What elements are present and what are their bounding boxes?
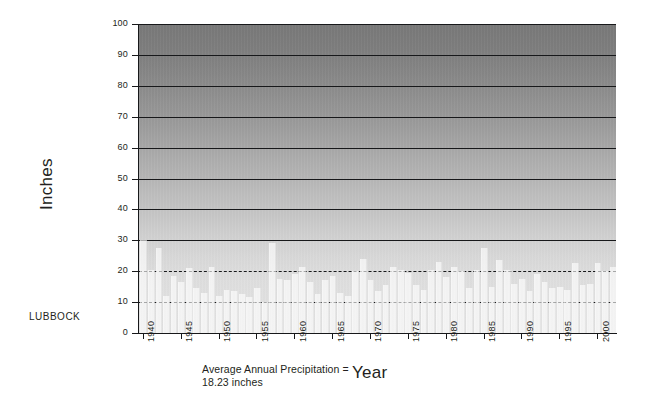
bar — [504, 270, 511, 333]
bar — [284, 280, 291, 333]
x-tick-1955 — [256, 333, 257, 339]
bar — [360, 259, 367, 333]
y-tick-label-20: 20 — [100, 266, 128, 276]
bar — [352, 271, 359, 333]
bar — [209, 267, 216, 333]
bar — [390, 267, 397, 333]
station-name-label: LUBBOCK — [29, 311, 80, 322]
bar — [156, 248, 163, 333]
bar — [383, 285, 390, 333]
y-tick-label-60: 60 — [100, 143, 128, 153]
bar — [542, 282, 549, 333]
y-tick-100 — [132, 24, 138, 25]
y-tick-20 — [132, 271, 138, 272]
bar — [163, 296, 170, 333]
bar — [269, 243, 276, 333]
bar — [307, 282, 314, 333]
y-tick-50 — [132, 179, 138, 180]
average-precipitation-note: Average Annual Precipitation = 18.23 inc… — [202, 363, 382, 389]
bar — [193, 288, 200, 333]
average-note-line-1: Average Annual Precipitation = — [202, 363, 349, 375]
bar — [140, 240, 147, 333]
y-tick-90 — [132, 55, 138, 56]
x-tick-1970 — [370, 333, 371, 339]
bar — [466, 288, 473, 333]
x-tick-label-1940: 1940 — [147, 321, 156, 342]
y-tick-label-text: 50 — [100, 174, 128, 183]
bar — [246, 297, 253, 333]
y-tick-30 — [132, 240, 138, 241]
y-tick-label-text: 70 — [100, 112, 128, 121]
y-tick-label-text: 100 — [100, 19, 128, 28]
y-tick-label-30: 30 — [100, 235, 128, 245]
y-tick-label-40: 40 — [100, 204, 128, 214]
y-tick-80 — [132, 86, 138, 87]
x-tick-1975 — [408, 333, 409, 339]
y-tick-0 — [132, 333, 138, 334]
bar — [458, 271, 465, 333]
x-tick-label-1960: 1960 — [299, 321, 308, 342]
x-tick-label-1975: 1975 — [412, 321, 421, 342]
y-tick-70 — [132, 117, 138, 118]
bar — [398, 270, 405, 333]
x-tick-label-1995: 1995 — [564, 321, 573, 342]
bar — [421, 290, 428, 333]
bar — [231, 291, 238, 333]
bar — [171, 276, 178, 333]
bar — [534, 274, 541, 333]
x-tick-label-1970: 1970 — [374, 321, 383, 342]
x-tick-1995 — [559, 333, 560, 339]
y-axis-line — [138, 24, 139, 334]
y-tick-label-80: 80 — [100, 81, 128, 91]
bar — [587, 284, 594, 333]
y-tick-label-text: 30 — [100, 235, 128, 244]
x-tick-1980 — [446, 333, 447, 339]
y-tick-label-text: 60 — [100, 143, 128, 152]
x-tick-label-1955: 1955 — [261, 321, 270, 342]
y-tick-label-0: 0 — [100, 328, 128, 338]
y-tick-10 — [132, 302, 138, 303]
x-tick-label-1965: 1965 — [337, 321, 346, 342]
bar — [436, 262, 443, 333]
y-axis-title: Inches — [38, 158, 55, 210]
bar — [496, 260, 503, 333]
y-tick-label-90: 90 — [100, 50, 128, 60]
bar — [239, 294, 246, 333]
x-tick-1990 — [521, 333, 522, 339]
x-tick-1960 — [294, 333, 295, 339]
x-tick-label-1985: 1985 — [488, 321, 497, 342]
bar — [511, 284, 518, 333]
bar — [277, 279, 284, 333]
x-tick-1965 — [332, 333, 333, 339]
x-tick-label-1945: 1945 — [185, 321, 194, 342]
x-tick-1985 — [484, 333, 485, 339]
y-tick-40 — [132, 209, 138, 210]
x-tick-1940 — [143, 333, 144, 339]
average-note-line-2: 18.23 inches — [202, 376, 263, 388]
y-tick-label-text: 40 — [100, 204, 128, 213]
y-tick-label-text: 20 — [100, 266, 128, 275]
bar — [580, 285, 587, 333]
y-tick-label-50: 50 — [100, 174, 128, 184]
bar — [474, 270, 481, 333]
bar — [428, 270, 435, 333]
bar — [572, 263, 579, 333]
bar — [201, 293, 208, 333]
x-tick-2000 — [597, 333, 598, 339]
x-tick-1950 — [219, 333, 220, 339]
bar-series — [139, 24, 616, 333]
plot-area — [139, 24, 616, 333]
y-tick-label-100: 100 — [100, 19, 128, 29]
x-tick-label-1980: 1980 — [450, 321, 459, 342]
bar — [315, 294, 322, 333]
x-tick-label-2000: 2000 — [602, 321, 611, 342]
y-tick-label-text: 90 — [100, 50, 128, 59]
y-tick-60 — [132, 148, 138, 149]
y-tick-label-10: 10 — [100, 297, 128, 307]
precipitation-bar-chart: 0102030405060708090100 19401945195019551… — [0, 0, 648, 416]
x-tick-label-1950: 1950 — [223, 321, 232, 342]
y-tick-label-text: 80 — [100, 81, 128, 90]
y-tick-label-text: 10 — [100, 297, 128, 306]
x-tick-label-1990: 1990 — [526, 321, 535, 342]
bar — [322, 280, 329, 333]
